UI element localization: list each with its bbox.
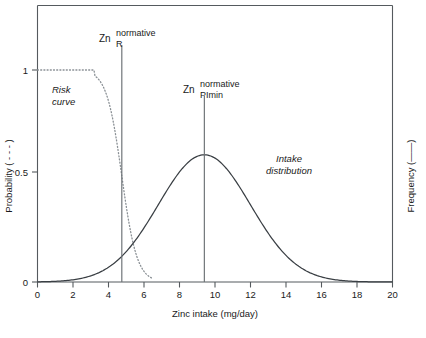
x-axis-title: Zinc intake (mg/day) [172,308,258,319]
y-tick-label: 1 [23,65,28,76]
marker-zn-r-superscript: normative [116,28,156,38]
x-axis-ticks [38,282,393,288]
y-tick-label: 0 [23,277,28,288]
marker-zn-plmin-symbol: Zn [183,84,195,95]
marker-label-zn-r: Zn normative R [99,28,156,49]
risk-curve-label-line2: curve [52,96,75,107]
x-tick-label: 8 [177,289,182,300]
y-axis-ticks [32,70,38,282]
x-tick-label: 14 [281,289,292,300]
x-tick-label: 10 [210,289,221,300]
annotation-risk-curve: Risk curve [52,84,75,107]
marker-zn-plmin-subscript: PImin [200,90,223,100]
x-tick-labels: 0 2 4 6 8 10 12 14 16 18 20 [35,289,398,300]
x-tick-label: 0 [35,289,40,300]
marker-zn-r-subscript: R [116,39,123,49]
risk-curve-label-line1: Risk [52,84,72,95]
annotation-intake-distribution: Intake distribution [266,153,312,176]
x-tick-label: 2 [70,289,75,300]
x-tick-label: 6 [141,289,146,300]
x-tick-label: 18 [352,289,363,300]
intake-label-line2: distribution [266,165,312,176]
y-axis-left-title: Probability ( - - - ) [3,139,14,212]
x-tick-label: 16 [316,289,327,300]
marker-zn-plmin-superscript: normative [200,79,240,89]
y-axis-right-title: Frequency (——) [405,140,416,213]
marker-label-zn-plmin: Zn normative PImin [183,79,240,100]
chart-figure: 0 2 4 6 8 10 12 14 16 18 20 0 0.5 1 Zinc… [0,0,426,338]
intake-label-line1: Intake [276,153,302,164]
y-tick-labels: 0 0.5 1 [15,65,28,288]
x-tick-label: 4 [106,289,111,300]
zinc-intake-risk-chart: 0 2 4 6 8 10 12 14 16 18 20 0 0.5 1 Zinc… [0,0,426,338]
marker-zn-r-symbol: Zn [99,33,111,44]
plot-frame [38,6,393,283]
intake-distribution-series [38,155,393,282]
x-tick-label: 12 [245,289,256,300]
y-tick-label: 0.5 [15,167,28,178]
x-tick-label: 20 [387,289,398,300]
